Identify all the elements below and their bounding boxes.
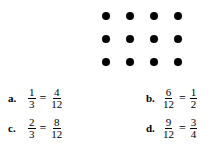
problem-c: c. 2 3 = 8 12 [8, 116, 63, 140]
equals-sign: = [179, 121, 186, 136]
dot [102, 12, 110, 20]
fraction-left: 1 3 [28, 87, 36, 110]
dot [102, 58, 110, 66]
fraction-right: 1 2 [190, 87, 198, 110]
dot [126, 12, 134, 20]
dot [150, 58, 158, 66]
equals-sign: = [40, 91, 47, 106]
dot [174, 58, 182, 66]
dot [126, 35, 134, 43]
equals-sign: = [179, 91, 186, 106]
problem-label: b. [146, 92, 162, 104]
fraction-right: 4 12 [50, 87, 63, 110]
fraction-left: 6 12 [162, 87, 175, 110]
problem-a: a. 1 3 = 4 12 [8, 86, 63, 110]
problem-label: d. [146, 122, 162, 134]
fraction-left: 9 12 [162, 117, 175, 140]
dot [102, 35, 110, 43]
dot [150, 35, 158, 43]
problem-d: d. 9 12 = 3 4 [146, 116, 197, 140]
equals-sign: = [40, 121, 47, 136]
fraction-right: 3 4 [190, 117, 198, 140]
fraction-right: 8 12 [50, 117, 63, 140]
problem-label: c. [8, 122, 28, 134]
fraction-left: 2 3 [28, 117, 36, 140]
dot [174, 35, 182, 43]
dot [174, 12, 182, 20]
dot [126, 58, 134, 66]
problem-label: a. [8, 92, 28, 104]
problem-b: b. 6 12 = 1 2 [146, 86, 197, 110]
dot [150, 12, 158, 20]
